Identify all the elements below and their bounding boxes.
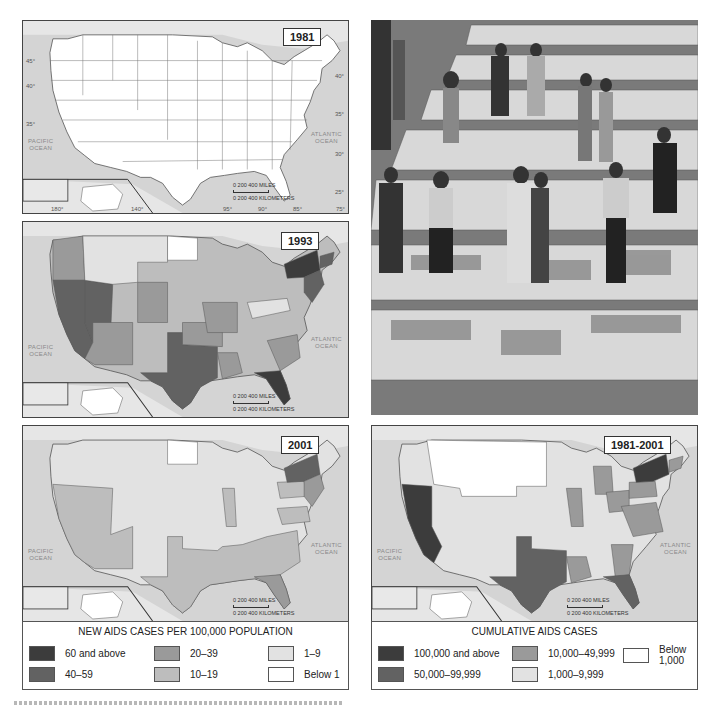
map-panel-2001: 2001 PACIFIC OCEAN ATLANTIC OCEAN 0 200 …: [22, 425, 349, 622]
lat-label: 35°: [26, 121, 35, 127]
legend-item: Below 1,000: [623, 644, 695, 666]
lat-label: 40°: [335, 73, 344, 79]
legend-swatch: [154, 667, 180, 682]
photo-image: [371, 20, 698, 415]
pacific-ocean-label: PACIFIC OCEAN: [28, 138, 53, 152]
aids-quilt-photo: [371, 20, 698, 415]
legend-title: CUMULATIVE AIDS CASES: [372, 626, 697, 637]
legend-item: 100,000 and above: [378, 646, 500, 661]
lon-label: 95°: [223, 206, 232, 212]
legend-swatch: [268, 667, 294, 682]
lat-label: 35°: [335, 111, 344, 117]
lat-label: 30°: [335, 151, 344, 157]
legend-swatch: [512, 646, 538, 661]
us-map-1981: [23, 21, 348, 213]
us-map-2001: [23, 426, 348, 621]
legend-swatch: [154, 646, 180, 661]
atlantic-ocean-label: ATLANTIC OCEAN: [311, 131, 342, 145]
map-panel-cumulative: 1981-2001 PACIFIC OCEAN ATLANTIC OCEAN 0…: [371, 425, 698, 622]
legend-swatch: [29, 667, 55, 682]
atlantic-ocean-label: ATLANTIC OCEAN: [311, 336, 342, 350]
year-label: 1981: [283, 28, 321, 46]
legend-swatch: [623, 648, 649, 663]
legend-item: Below 1: [268, 667, 340, 682]
legend-swatch: [268, 646, 294, 661]
lat-label: 45°: [26, 58, 35, 64]
lon-label: 140°: [131, 206, 143, 212]
legend-item: 10–19: [154, 667, 218, 682]
scale-bar: 0 200 400 MILES0 200 400 KILOMETERS: [233, 596, 294, 617]
lat-label: 25°: [335, 189, 344, 195]
year-label: 1993: [281, 232, 319, 250]
scale-bar: 0 200 400 MILES0 200 400 KILOMETERS: [233, 181, 294, 202]
legend-new-cases: NEW AIDS CASES PER 100,000 POPULATION 60…: [22, 621, 349, 690]
legend-cumulative: CUMULATIVE AIDS CASES 100,000 and above …: [371, 621, 698, 690]
legend-item: 10,000–49,999: [512, 646, 615, 661]
year-label: 2001: [281, 436, 319, 454]
legend-item: 50,000–99,999: [378, 667, 481, 682]
year-label: 1981-2001: [604, 436, 671, 454]
pacific-ocean-label: PACIFIC OCEAN: [28, 548, 53, 562]
legend-item: 40–59: [29, 667, 93, 682]
figure-caption: [0, 698, 715, 708]
legend-title: NEW AIDS CASES PER 100,000 POPULATION: [23, 626, 348, 637]
legend-swatch: [378, 667, 404, 682]
map-panel-1993: 1993 PACIFIC OCEAN ATLANTIC OCEAN 0 200 …: [22, 221, 349, 418]
legend-item: 1,000–9,999: [512, 667, 604, 682]
legend-swatch: [512, 667, 538, 682]
lat-label: 40°: [26, 83, 35, 89]
legend-swatch: [29, 646, 55, 661]
lon-label: 180°: [51, 206, 63, 212]
us-map-1993: [23, 222, 348, 417]
lon-label: 85°: [293, 206, 302, 212]
pacific-ocean-label: PACIFIC OCEAN: [28, 344, 53, 358]
scale-bar: 0 200 400 MILES0 200 400 KILOMETERS: [233, 392, 294, 413]
lon-label: 90°: [258, 206, 267, 212]
map-panel-1981: 1981 45° 40° 35° 40° 35° 30° 25° PACIFIC…: [22, 20, 349, 214]
scale-bar: 0 200 400 MILES0 200 400 KILOMETERS: [567, 596, 628, 617]
legend-item: 60 and above: [29, 646, 126, 661]
legend-item: 20–39: [154, 646, 218, 661]
us-map-cumulative: [372, 426, 697, 621]
pacific-ocean-label: PACIFIC OCEAN: [377, 548, 402, 562]
legend-swatch: [378, 646, 404, 661]
legend-item: 1–9: [268, 646, 321, 661]
atlantic-ocean-label: ATLANTIC OCEAN: [311, 542, 342, 556]
lon-label: 75°: [336, 206, 345, 212]
atlantic-ocean-label: ATLANTIC OCEAN: [660, 542, 691, 556]
